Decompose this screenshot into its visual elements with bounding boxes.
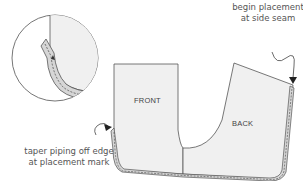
- taper-line-1: taper piping off edge: [14, 146, 124, 157]
- front-label: FRONT: [134, 96, 161, 105]
- detail-inset: [12, 10, 110, 101]
- begin-placement-note: begin placement at side seam: [228, 2, 303, 24]
- back-label: BACK: [232, 119, 253, 128]
- taper-line-2: at placement mark: [14, 157, 124, 168]
- taper-piping-note: taper piping off edge at placement mark: [14, 146, 124, 168]
- begin-line-1: begin placement: [228, 2, 303, 13]
- begin-line-2: at side seam: [228, 13, 303, 24]
- front-panel: [114, 64, 183, 174]
- begin-arrow: [272, 52, 294, 78]
